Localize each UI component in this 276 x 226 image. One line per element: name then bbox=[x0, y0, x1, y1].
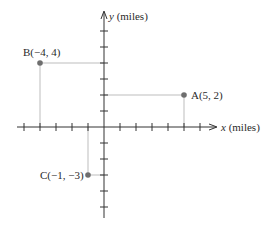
y-axis-label: y (miles) bbox=[108, 10, 148, 23]
point-a-label: A(5, 2) bbox=[191, 89, 223, 102]
guide-lines bbox=[40, 63, 184, 175]
point-c-marker-icon bbox=[85, 172, 91, 178]
y-axis: y (miles) bbox=[100, 10, 148, 218]
point-b-label: B(−4, 4) bbox=[23, 46, 61, 59]
point-c: C(−1, −3) bbox=[40, 169, 91, 182]
x-axis: x (miles) bbox=[17, 121, 260, 134]
point-a: A(5, 2) bbox=[181, 89, 223, 102]
x-axis-label: x (miles) bbox=[220, 121, 260, 134]
coordinate-plane: x (miles) y (miles) A(5, 2) B(−4, 4) C(− bbox=[0, 0, 276, 226]
point-b-marker-icon bbox=[37, 60, 43, 66]
point-a-marker-icon bbox=[181, 92, 187, 98]
point-c-label: C(−1, −3) bbox=[40, 169, 84, 182]
